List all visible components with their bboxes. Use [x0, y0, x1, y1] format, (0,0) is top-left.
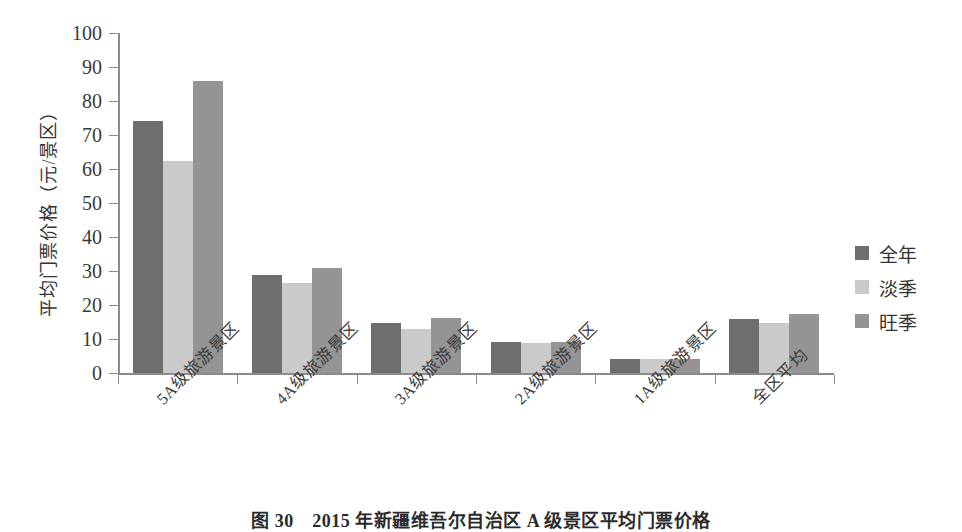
x-tick [595, 375, 596, 384]
y-tick: 40 [109, 237, 118, 238]
y-tick-label: 40 [82, 227, 102, 247]
y-tick: 80 [109, 101, 118, 102]
bar [371, 323, 401, 373]
y-tick: 0 [109, 373, 118, 374]
bar-group [491, 33, 581, 373]
y-tick: 100 [109, 33, 118, 34]
bar [163, 161, 193, 374]
bar [729, 319, 759, 373]
legend-label: 淡季 [879, 274, 917, 301]
legend-label: 旺季 [879, 308, 917, 335]
legend-item: 旺季 [855, 304, 960, 338]
y-tick-label: 20 [82, 295, 102, 315]
bar-group [729, 33, 819, 373]
y-axis-line [118, 33, 120, 375]
y-tick: 70 [109, 135, 118, 136]
y-tick-label: 0 [92, 363, 102, 383]
y-tick-label: 100 [72, 23, 102, 43]
bar-group [371, 33, 461, 373]
legend-item: 淡季 [855, 270, 960, 304]
bar [610, 359, 640, 373]
y-tick-label: 60 [82, 159, 102, 179]
x-tick [237, 375, 238, 384]
y-tick: 90 [109, 67, 118, 68]
legend-label: 全年 [879, 240, 917, 267]
y-tick-label: 50 [82, 193, 102, 213]
x-tick [715, 375, 716, 384]
y-tick-label: 80 [82, 91, 102, 111]
x-tick [476, 375, 477, 384]
y-tick-label: 70 [82, 125, 102, 145]
y-tick: 30 [109, 271, 118, 272]
y-tick: 10 [109, 339, 118, 340]
y-tick: 20 [109, 305, 118, 306]
legend-swatch [855, 280, 869, 294]
x-tick [834, 375, 835, 384]
x-tick [357, 375, 358, 384]
y-tick-label: 30 [82, 261, 102, 281]
x-tick [118, 375, 119, 384]
bar-group [133, 33, 223, 373]
legend-swatch [855, 314, 869, 328]
bar [491, 342, 521, 373]
y-axis-title: 平均门票价格（元/景区） [34, 44, 60, 374]
legend-item: 全年 [855, 236, 960, 270]
chart-legend: 全年淡季旺季 [855, 236, 960, 338]
bar [133, 121, 163, 373]
figure-caption: 图 30 2015 年新疆维吾尔自治区 A 级景区平均门票价格 [0, 506, 962, 532]
legend-swatch [855, 246, 869, 260]
y-tick: 50 [109, 203, 118, 204]
bar-group [610, 33, 700, 373]
bar [252, 275, 282, 373]
bar-group [252, 33, 342, 373]
y-tick: 60 [109, 169, 118, 170]
y-tick-label: 90 [82, 57, 102, 77]
y-tick-label: 10 [82, 329, 102, 349]
